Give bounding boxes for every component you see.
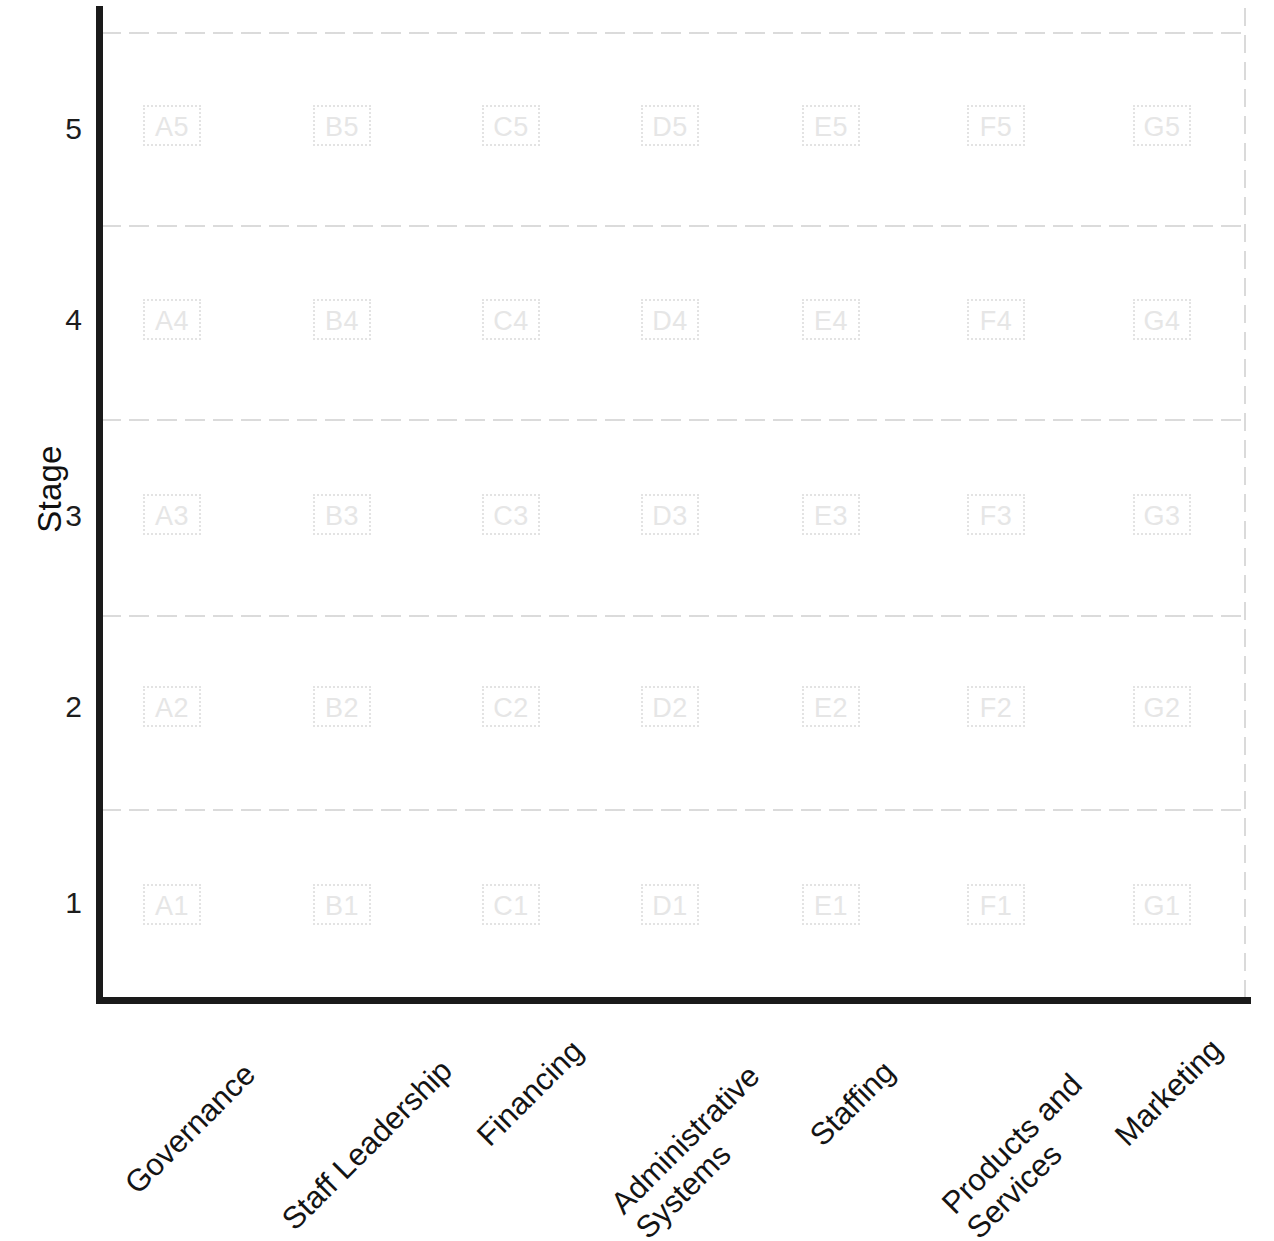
matrix-cell-b2[interactable]: B2	[313, 686, 371, 727]
gridline-horizontal-3	[101, 419, 1249, 421]
matrix-cell-c1[interactable]: C1	[482, 884, 540, 925]
matrix-cell-g1[interactable]: G1	[1133, 884, 1191, 925]
x-axis-line	[96, 997, 1251, 1004]
y-tick-label-3: 3	[42, 499, 82, 533]
x-axis-label-staff-leadership: Staff Leadership	[275, 1053, 459, 1237]
matrix-cell-f3[interactable]: F3	[967, 494, 1025, 535]
gridline-horizontal-2	[101, 225, 1249, 227]
matrix-cell-c3[interactable]: C3	[482, 494, 540, 535]
matrix-cell-c4[interactable]: C4	[482, 299, 540, 340]
x-axis-label-marketing: Marketing	[1108, 1032, 1229, 1153]
x-axis-label-line1: Staffing	[803, 1054, 902, 1153]
matrix-cell-d2[interactable]: D2	[641, 686, 699, 727]
matrix-cell-e5[interactable]: E5	[802, 105, 860, 146]
x-axis-label-line1: Marketing	[1108, 1032, 1229, 1153]
gridline-horizontal-1	[101, 32, 1249, 34]
matrix-cell-e2[interactable]: E2	[802, 686, 860, 727]
matrix-cell-f1[interactable]: F1	[967, 884, 1025, 925]
matrix-cell-d1[interactable]: D1	[641, 884, 699, 925]
y-tick-label-5: 5	[42, 112, 82, 146]
y-tick-label-1: 1	[42, 886, 82, 920]
matrix-cell-c5[interactable]: C5	[482, 105, 540, 146]
matrix-cell-a5[interactable]: A5	[143, 105, 201, 146]
matrix-cell-g4[interactable]: G4	[1133, 299, 1191, 340]
matrix-cell-b5[interactable]: B5	[313, 105, 371, 146]
matrix-cell-a2[interactable]: A2	[143, 686, 201, 727]
x-axis-label-administrative-systems: AdministrativeSystems	[604, 1058, 792, 1241]
matrix-cell-f5[interactable]: F5	[967, 105, 1025, 146]
y-tick-label-2: 2	[42, 690, 82, 724]
matrix-cell-a4[interactable]: A4	[143, 299, 201, 340]
matrix-cell-a1[interactable]: A1	[143, 884, 201, 925]
matrix-cell-g5[interactable]: G5	[1133, 105, 1191, 146]
matrix-cell-g2[interactable]: G2	[1133, 686, 1191, 727]
x-axis-label-products-and-services: Products andServices	[935, 1067, 1114, 1241]
gridline-vertical-right	[1244, 8, 1246, 998]
matrix-cell-d5[interactable]: D5	[641, 105, 699, 146]
x-axis-label-line1: Governance	[118, 1057, 262, 1201]
matrix-cell-b3[interactable]: B3	[313, 494, 371, 535]
x-axis-label-financing: Financing	[470, 1033, 590, 1153]
matrix-cell-d3[interactable]: D3	[641, 494, 699, 535]
matrix-cell-f4[interactable]: F4	[967, 299, 1025, 340]
matrix-cell-a3[interactable]: A3	[143, 494, 201, 535]
matrix-cell-e3[interactable]: E3	[802, 494, 860, 535]
matrix-cell-d4[interactable]: D4	[641, 299, 699, 340]
matrix-cell-g3[interactable]: G3	[1133, 494, 1191, 535]
y-tick-label-4: 4	[42, 303, 82, 337]
matrix-cell-e4[interactable]: E4	[802, 299, 860, 340]
matrix-cell-c2[interactable]: C2	[482, 686, 540, 727]
matrix-cell-b4[interactable]: B4	[313, 299, 371, 340]
gridline-horizontal-5	[101, 809, 1249, 811]
y-axis-line	[96, 6, 103, 1004]
x-axis-label-staffing: Staffing	[803, 1054, 902, 1153]
x-axis-label-line1: Financing	[470, 1033, 590, 1153]
matrix-cell-f2[interactable]: F2	[967, 686, 1025, 727]
x-axis-label-governance: Governance	[118, 1057, 262, 1201]
gridline-horizontal-4	[101, 615, 1249, 617]
matrix-cell-b1[interactable]: B1	[313, 884, 371, 925]
matrix-cell-e1[interactable]: E1	[802, 884, 860, 925]
x-axis-label-line1: Staff Leadership	[275, 1053, 459, 1237]
